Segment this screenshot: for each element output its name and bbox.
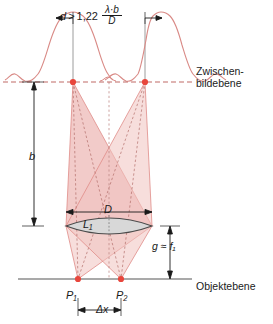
- formula-denominator: D: [105, 16, 118, 26]
- intermediate-image-plane-label-line2: bildebene: [196, 78, 244, 90]
- image-point-marker-2: [142, 79, 148, 85]
- object-point-marker-P1: [75, 276, 81, 282]
- formula-coefficient: 1,22: [77, 10, 98, 22]
- image-point-marker-1: [70, 79, 76, 85]
- separation-label: Δx: [96, 303, 108, 315]
- aperture-diameter-label: D: [104, 203, 112, 215]
- formula-variable: d: [60, 10, 66, 22]
- object-point-label-P2: P₂: [116, 289, 128, 301]
- intermediate-image-plane-label: Zwischen- bildebene: [196, 66, 244, 89]
- object-distance-label: g ≈ f₁: [152, 240, 176, 252]
- image-distance-label: b: [29, 150, 35, 162]
- dimension-g: [160, 226, 180, 279]
- object-plane-label: Objektebene: [196, 280, 256, 292]
- formula-relation: >: [68, 10, 74, 22]
- resolution-formula: d > 1,22 λ·b D: [60, 5, 122, 26]
- formula-fraction: λ·b D: [102, 5, 122, 26]
- optics-diagram: d > 1,22 λ·b D Zwischen- bildebene Objek…: [0, 0, 273, 324]
- formula-numerator: λ·b: [102, 5, 122, 15]
- object-point-label-P1: P₁: [66, 289, 77, 301]
- intermediate-image-plane-label-line1: Zwischen-: [196, 66, 244, 78]
- planes-and-dimensions-layer: [0, 0, 273, 324]
- lens-label: L₁: [83, 218, 93, 230]
- object-point-marker-P2: [118, 276, 124, 282]
